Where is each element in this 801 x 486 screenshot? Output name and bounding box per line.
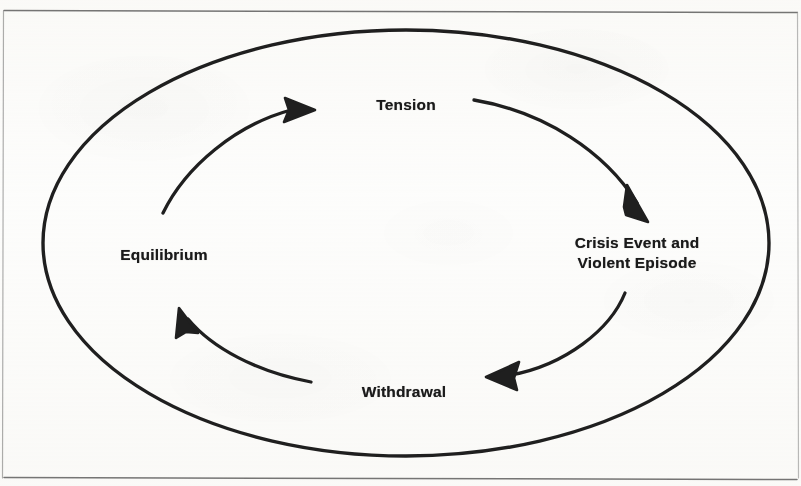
arrowhead-tension — [284, 98, 315, 122]
arrowhead-equilibrium — [176, 308, 198, 338]
stage-label-tension: Tension — [376, 95, 436, 115]
page-bottom-rule — [4, 478, 797, 480]
stage-label-equilibrium: Equilibrium — [120, 245, 207, 265]
stage-label-withdrawal: Withdrawal — [362, 382, 447, 402]
arrow-crisis-to-withdrawal — [486, 293, 625, 390]
arrowhead-crisis — [624, 185, 648, 222]
arrow-withdrawal-to-equilibrium — [176, 308, 311, 382]
page-left-rule — [3, 11, 4, 478]
stage-label-crisis-event-and-violent-episode: Crisis Event and Violent Episode — [575, 233, 700, 273]
arrow-equilibrium-to-tension — [163, 98, 315, 213]
page-right-rule — [798, 12, 799, 478]
arrowhead-withdrawal — [486, 362, 519, 390]
figure-page: Tension Crisis Event and Violent Episode… — [0, 0, 801, 486]
arrow-tension-to-crisis — [474, 100, 648, 222]
page-top-rule — [4, 11, 797, 13]
